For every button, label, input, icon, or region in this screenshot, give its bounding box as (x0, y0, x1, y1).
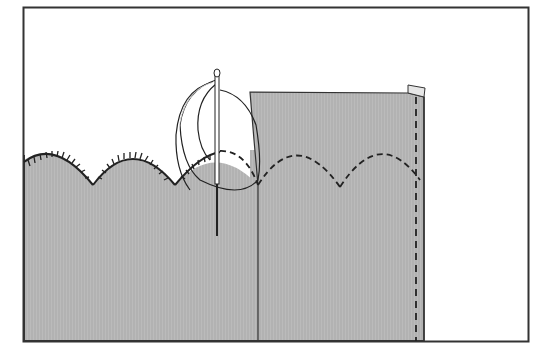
folded-facing-layer (250, 92, 424, 341)
fabric-panel (24, 154, 258, 340)
sewing-illustration (0, 0, 536, 357)
